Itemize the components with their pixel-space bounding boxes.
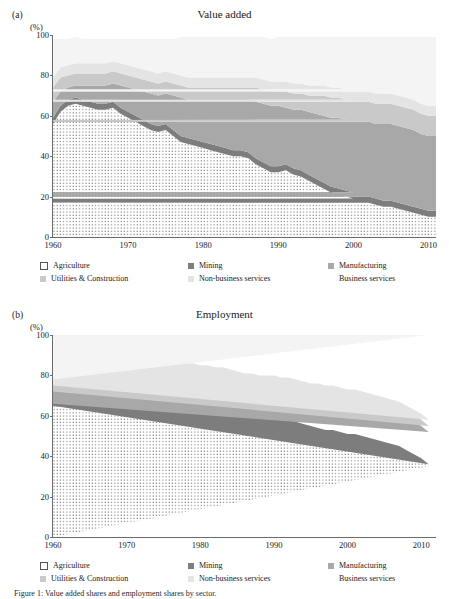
panel-a-legend: AgricultureMiningManufacturingUtilities … [40, 261, 448, 287]
legend-swatch-nonbusiness-icon [188, 276, 194, 282]
y-tick-label: 80 [41, 70, 50, 80]
legend-label: Utilities & Construction [51, 574, 128, 583]
panel-employment: (b) Employment (%) 020406080100196019701… [0, 300, 449, 597]
legend-item-mining[interactable]: Mining [188, 561, 328, 570]
y-axis-line [52, 335, 53, 537]
panel-b-plot: 020406080100196019701980199020002010 [53, 335, 436, 537]
x-axis-line [52, 537, 436, 538]
y-tick-mark [50, 75, 53, 76]
legend-swatch-nonbusiness-icon [188, 576, 194, 582]
legend-label: Manufacturing [339, 561, 387, 570]
legend-row: Utilities & ConstructionNon-business ser… [40, 574, 448, 583]
legend-swatch-utilities-icon [40, 576, 46, 582]
x-tick-label: 1970 [118, 540, 135, 550]
x-tick-label: 1980 [195, 240, 212, 250]
y-tick-mark [50, 416, 53, 417]
legend-item-business[interactable]: Business services [328, 574, 448, 583]
legend-swatch-mining-icon [188, 563, 194, 569]
legend-swatch-agriculture-icon [40, 262, 48, 270]
legend-label: Non-business services [199, 274, 270, 283]
x-tick-label: 1970 [120, 240, 137, 250]
panel-b-title: Employment [0, 308, 449, 320]
panel-a-area-stack [53, 35, 436, 237]
y-tick-label: 20 [41, 192, 50, 202]
y-tick-label: 100 [36, 30, 49, 40]
figure-caption: Figure 1: Value added shares and employm… [14, 588, 444, 599]
legend-item-agriculture[interactable]: Agriculture [40, 561, 188, 570]
legend-row: AgricultureMiningManufacturing [40, 561, 448, 570]
y-tick-mark [50, 375, 53, 376]
panel-a-plot: 020406080100196019701980199020002010 [53, 35, 436, 237]
legend-label: Agriculture [53, 261, 90, 270]
y-tick-label: 40 [41, 151, 50, 161]
legend-swatch-manufacturing-icon [328, 563, 334, 569]
legend-swatch-utilities-icon [40, 276, 46, 282]
x-tick-label: 1960 [45, 240, 62, 250]
panel-b-legend: AgricultureMiningManufacturingUtilities … [40, 561, 448, 587]
legend-label: Mining [199, 261, 223, 270]
legend-row: Utilities & ConstructionNon-business ser… [40, 274, 448, 283]
legend-swatch-business-icon [328, 276, 334, 282]
x-tick-label: 2010 [413, 540, 430, 550]
legend-item-utilities[interactable]: Utilities & Construction [40, 274, 188, 283]
legend-row: AgricultureMiningManufacturing [40, 261, 448, 270]
legend-swatch-business-icon [328, 576, 334, 582]
legend-item-business[interactable]: Business services [328, 274, 448, 283]
x-tick-label: 1990 [270, 240, 287, 250]
legend-item-nonbusiness[interactable]: Non-business services [188, 574, 328, 583]
legend-label: Agriculture [53, 561, 90, 570]
y-tick-mark [50, 35, 53, 36]
y-tick-mark [50, 497, 53, 498]
x-tick-label: 1980 [192, 540, 209, 550]
legend-item-utilities[interactable]: Utilities & Construction [40, 574, 188, 583]
legend-label: Non-business services [199, 574, 270, 583]
y-tick-label: 40 [41, 451, 50, 461]
y-tick-label: 20 [41, 492, 50, 502]
legend-swatch-manufacturing-icon [328, 263, 334, 269]
y-tick-mark [50, 197, 53, 198]
stacked-area-svg [53, 35, 436, 237]
y-tick-label: 100 [36, 330, 49, 340]
y-tick-mark [50, 456, 53, 457]
legend-item-nonbusiness[interactable]: Non-business services [188, 274, 328, 283]
stacked-area-svg [53, 335, 436, 537]
legend-item-agriculture[interactable]: Agriculture [40, 261, 188, 270]
panel-value-added: (a) Value added (%) 02040608010019601970… [0, 0, 449, 300]
panel-b-area-stack [53, 335, 436, 537]
y-tick-label: 80 [41, 370, 50, 380]
legend-label: Utilities & Construction [51, 274, 128, 283]
legend-label: Business services [339, 574, 395, 583]
y-tick-label: 60 [41, 411, 50, 421]
y-tick-label: 60 [41, 111, 50, 121]
x-axis-line [52, 237, 436, 238]
legend-item-manufacturing[interactable]: Manufacturing [328, 561, 448, 570]
panel-a-title: Value added [0, 8, 449, 20]
legend-item-manufacturing[interactable]: Manufacturing [328, 261, 448, 270]
legend-label: Mining [199, 561, 223, 570]
x-tick-label: 2000 [339, 540, 356, 550]
y-tick-mark [50, 537, 53, 538]
legend-swatch-mining-icon [188, 263, 194, 269]
y-tick-mark [50, 237, 53, 238]
x-tick-label: 1990 [265, 540, 282, 550]
y-tick-mark [50, 335, 53, 336]
legend-item-mining[interactable]: Mining [188, 261, 328, 270]
y-axis-line [52, 35, 53, 237]
y-tick-mark [50, 116, 53, 117]
x-tick-label: 1960 [45, 540, 62, 550]
x-tick-label: 2000 [345, 240, 362, 250]
x-tick-label: 2010 [420, 240, 437, 250]
legend-swatch-agriculture-icon [40, 562, 48, 570]
legend-label: Business services [339, 274, 395, 283]
y-tick-mark [50, 156, 53, 157]
legend-label: Manufacturing [339, 261, 387, 270]
